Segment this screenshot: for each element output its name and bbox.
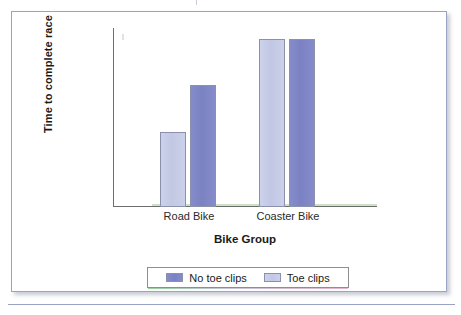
legend-entry-toe-clips: Toe clips — [264, 272, 330, 284]
bar-road-bike-toe-clips — [160, 132, 186, 207]
y-axis-label: Time to complete race — [42, 0, 54, 154]
legend-entry-no-toe-clips: No toe clips — [166, 272, 246, 284]
legend-swatch-no-toe-clips — [166, 273, 183, 282]
x-axis-category-label-coaster-bike: Coaster Bike — [231, 210, 345, 222]
chart-legend: No toe clips Toe clips — [147, 267, 349, 288]
y-axis-line — [113, 28, 114, 207]
bar-road-bike-no-toe-clips — [190, 85, 216, 207]
scan-artifact-tick — [196, 0, 197, 5]
legend-color-fringe — [148, 288, 348, 289]
x-axis-title: Bike Group — [113, 233, 377, 245]
legend-label-toe-clips: Toe clips — [287, 272, 330, 284]
x-axis-category-label-road-bike: Road Bike — [132, 210, 246, 222]
bar-coaster-bike-toe-clips — [259, 39, 285, 207]
legend-swatch-toe-clips — [264, 273, 281, 282]
x-axis-line — [113, 206, 377, 207]
figure-frame: Time to complete race Road Bike Coaster … — [11, 11, 447, 292]
bar-chart-plot-area: Time to complete race Road Bike Coaster … — [12, 12, 448, 293]
bar-coaster-bike-no-toe-clips — [289, 39, 315, 207]
legend-label-no-toe-clips: No toe clips — [189, 272, 246, 284]
page-bottom-rule — [8, 304, 455, 305]
